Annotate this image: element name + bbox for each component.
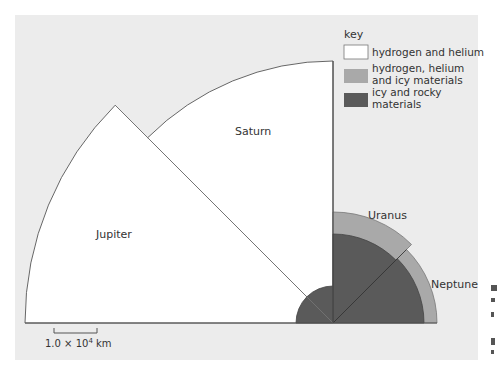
legend-label-hydrogen-helium-icy-line2: and icy materials	[372, 74, 463, 86]
scale-bar-label: 1.0 × 104 km	[45, 337, 112, 349]
neptune-label: Neptune	[431, 278, 478, 291]
cropped-text-fragment	[491, 312, 494, 317]
legend-label-icy-rocky-line1: icy and rocky	[372, 86, 442, 98]
saturn-label: Saturn	[235, 125, 271, 138]
jupiter-label: Jupiter	[95, 228, 132, 241]
legend-title: key	[344, 28, 364, 41]
giant-planets-interior-diagram: Jupiter Saturn Uranus Neptune key hydrog…	[0, 0, 497, 375]
cropped-text-fragment	[491, 285, 497, 291]
legend-swatch-hydrogen-helium	[344, 45, 368, 59]
uranus-label: Uranus	[368, 209, 407, 222]
legend-label-icy-rocky-line2: materials	[372, 98, 421, 110]
legend-label-hydrogen-helium-icy-line1: hydrogen, helium	[372, 62, 464, 74]
cropped-text-fragment	[491, 338, 495, 345]
cropped-text-fragment	[491, 298, 495, 302]
scale-bar-unit: km	[93, 338, 112, 349]
cropped-text-fragment	[491, 350, 494, 354]
legend-label-hydrogen-helium: hydrogen and helium	[372, 46, 484, 58]
legend-swatch-hydrogen-helium-icy	[344, 69, 368, 83]
scale-bar-mantissa: 1.0 × 10	[45, 338, 88, 349]
legend-swatch-icy-rocky	[344, 93, 368, 107]
